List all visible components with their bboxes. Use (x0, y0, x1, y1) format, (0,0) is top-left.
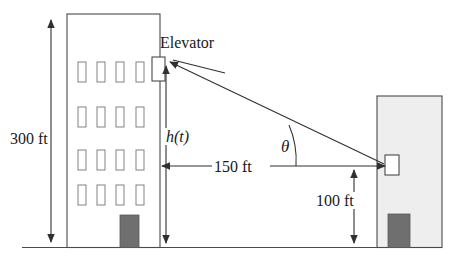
diagram-canvas: Elevator 300 ft h(t) 150 ft 100 ft θ 150… (0, 0, 456, 272)
window (97, 185, 105, 205)
tall-building-door (120, 215, 139, 248)
elevator-car (152, 57, 165, 81)
window (136, 185, 144, 205)
window (116, 62, 124, 82)
window (78, 150, 86, 170)
window (78, 185, 86, 205)
window (78, 62, 86, 82)
short-building (377, 96, 442, 248)
window (136, 62, 144, 82)
elevator-label: Elevator (160, 34, 215, 51)
window (78, 107, 86, 127)
window (116, 185, 124, 205)
angle-theta-label: θ (281, 137, 289, 156)
angle-arc-theta (289, 125, 296, 166)
elevator-diagram: Elevator 300 ft h(t) 150 ft 100 ft θ 150… (0, 0, 456, 272)
distance-150ft-label-top: 150 ft (214, 158, 252, 175)
window (97, 107, 105, 127)
tall-building-outline (67, 14, 160, 248)
window (136, 107, 144, 127)
window (97, 150, 105, 170)
observer-window (385, 155, 399, 175)
window (97, 62, 105, 82)
window (136, 150, 144, 170)
tall-building (67, 14, 165, 248)
window (116, 107, 124, 127)
window (116, 150, 124, 170)
height-300ft-label: 300 ft (10, 130, 48, 147)
height-function-label-top: h(t) (166, 128, 189, 146)
height-100ft-label-top: 100 ft (316, 192, 354, 209)
line-of-sight (170, 62, 384, 164)
elevator-callout-leader (173, 60, 225, 73)
short-building-door (388, 214, 410, 248)
